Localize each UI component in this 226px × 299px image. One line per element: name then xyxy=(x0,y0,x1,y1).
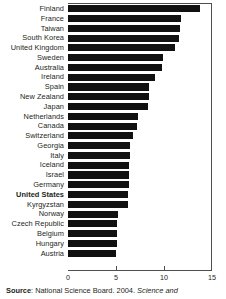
bar-row: Netherlands xyxy=(0,112,226,122)
bar xyxy=(68,25,180,32)
bar xyxy=(68,123,137,130)
bar-row: Taiwan xyxy=(0,24,226,34)
bar-row: United Kingdom xyxy=(0,43,226,53)
bar xyxy=(68,142,130,149)
bar xyxy=(68,191,128,198)
source-italic-title: Science and xyxy=(137,286,178,295)
bar-row: Iceland xyxy=(0,160,226,170)
category-label: Canada xyxy=(0,121,64,131)
category-label: Switzerland xyxy=(0,131,64,141)
bar-row: Norway xyxy=(0,209,226,219)
bar xyxy=(68,230,117,237)
bar xyxy=(68,220,117,227)
bar xyxy=(68,64,162,71)
bar-row: Hungary xyxy=(0,239,226,249)
bar-row: Finland xyxy=(0,4,226,14)
bar xyxy=(68,181,129,188)
category-label: Sweden xyxy=(0,53,64,63)
x-axis-tick-label: 5 xyxy=(114,273,118,282)
category-label: Italy xyxy=(0,151,64,161)
source-publisher: National Science Board. 2004. xyxy=(35,286,137,295)
bar-row: Canada xyxy=(0,121,226,131)
bar-row: Japan xyxy=(0,102,226,112)
category-label: United Kingdom xyxy=(0,43,64,53)
bar xyxy=(68,171,129,178)
bar xyxy=(68,44,175,51)
bar-row: France xyxy=(0,14,226,24)
bar-row: New Zealand xyxy=(0,92,226,102)
category-label: Georgia xyxy=(0,141,64,151)
bar xyxy=(68,54,163,61)
bar-row: Sweden xyxy=(0,53,226,63)
x-axis-tick-label: 0 xyxy=(66,273,70,282)
bar xyxy=(68,113,138,120)
bar-row: Austria xyxy=(0,249,226,259)
category-label: Netherlands xyxy=(0,112,64,122)
category-label: Germany xyxy=(0,180,64,190)
x-axis-tick-label: 10 xyxy=(160,273,168,282)
bar xyxy=(68,250,116,257)
source-note: Source: National Science Board. 2004. Sc… xyxy=(6,286,224,295)
category-label: Taiwan xyxy=(0,24,64,34)
category-label: Hungary xyxy=(0,239,64,249)
category-label: Finland xyxy=(0,4,64,14)
bar-row: Israel xyxy=(0,170,226,180)
category-label: New Zealand xyxy=(0,92,64,102)
bar xyxy=(68,74,155,81)
bar xyxy=(68,83,149,90)
bar xyxy=(68,103,148,110)
category-label: Spain xyxy=(0,82,64,92)
category-label: United States xyxy=(0,190,64,200)
category-label: Czech Republic xyxy=(0,219,64,229)
bar xyxy=(68,162,129,169)
bar-rows-container: FinlandFranceTaiwanSouth KoreaUnited Kin… xyxy=(0,0,226,271)
category-label: South Korea xyxy=(0,33,64,43)
bar-row: Australia xyxy=(0,63,226,73)
category-label: Austria xyxy=(0,249,64,259)
bar xyxy=(68,240,117,247)
category-label: Norway xyxy=(0,209,64,219)
bar xyxy=(68,152,130,159)
bar xyxy=(68,15,181,22)
bar xyxy=(68,201,128,208)
x-axis-tick-mark xyxy=(164,266,165,271)
bar xyxy=(68,211,118,218)
bar-row: Italy xyxy=(0,151,226,161)
plot-area: FinlandFranceTaiwanSouth KoreaUnited Kin… xyxy=(0,0,226,275)
bar-row: Germany xyxy=(0,180,226,190)
bar-row: Kyrgyzstan xyxy=(0,200,226,210)
x-axis-tick-mark xyxy=(116,266,117,271)
bar-row: South Korea xyxy=(0,33,226,43)
x-axis-tick-label: 15 xyxy=(208,273,216,282)
category-label: Iceland xyxy=(0,160,64,170)
bar-row: Belgium xyxy=(0,229,226,239)
bar xyxy=(68,35,179,42)
category-label: Israel xyxy=(0,170,64,180)
bar-row: Georgia xyxy=(0,141,226,151)
bar xyxy=(68,132,133,139)
category-label: Ireland xyxy=(0,72,64,82)
category-label: Japan xyxy=(0,102,64,112)
category-label: France xyxy=(0,14,64,24)
bar-row: Spain xyxy=(0,82,226,92)
source-label: Source xyxy=(6,286,31,295)
bar-row: Ireland xyxy=(0,72,226,82)
bar-row: Switzerland xyxy=(0,131,226,141)
bar-row: United States xyxy=(0,190,226,200)
bar xyxy=(68,93,149,100)
category-label: Kyrgyzstan xyxy=(0,200,64,210)
bar xyxy=(68,5,200,12)
bar-chart-figure: FinlandFranceTaiwanSouth KoreaUnited Kin… xyxy=(0,0,226,299)
category-label: Belgium xyxy=(0,229,64,239)
category-label: Australia xyxy=(0,63,64,73)
bar-row: Czech Republic xyxy=(0,219,226,229)
